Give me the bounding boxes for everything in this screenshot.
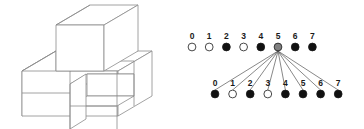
bottom-node-row-dot-1[interactable] (229, 90, 237, 98)
top-cube-front-face (56, 25, 104, 71)
bottom-node-row-label-5: 5 (301, 78, 306, 88)
top-node-row-label-0: 0 (190, 31, 195, 41)
bottom-node-row-dot-4[interactable] (282, 90, 290, 98)
bottom-node-row-label-1: 1 (230, 78, 235, 88)
bottom-node-row-dot-2[interactable] (246, 90, 254, 98)
top-node-row-label-5: 5 (276, 31, 281, 41)
top-node-row-label-1: 1 (207, 31, 212, 41)
node-graph: 01234567 01234567 (182, 0, 364, 129)
top-node-row: 01234567 (188, 31, 316, 51)
top-node-row-dot-5[interactable] (274, 43, 282, 51)
bottom-node-row-label-2: 2 (248, 78, 253, 88)
top-node-row-dot-2[interactable] (223, 43, 231, 51)
top-node-row-label-4: 4 (258, 31, 263, 41)
bottom-node-row-dot-7[interactable] (334, 90, 342, 98)
bottom-node-row-label-3: 3 (265, 78, 270, 88)
top-node-row-dot-3[interactable] (240, 43, 248, 51)
bottom-node-row-dot-0[interactable] (211, 90, 219, 98)
bottom-node-row: 01234567 (211, 78, 342, 98)
top-node-row-dot-7[interactable] (309, 43, 317, 51)
top-node-row-label-2: 2 (224, 31, 229, 41)
top-node-row-dot-6[interactable] (291, 43, 299, 51)
top-node-row-dot-4[interactable] (257, 43, 265, 51)
bottom-node-row-label-7: 7 (336, 78, 341, 88)
isometric-block-structure (0, 0, 182, 129)
figure-root: 01234567 01234567 (0, 0, 364, 129)
top-node-row-label-7: 7 (310, 31, 315, 41)
bottom-node-row-dot-5[interactable] (299, 90, 307, 98)
bottom-node-row-label-6: 6 (318, 78, 323, 88)
top-node-row-dot-0[interactable] (188, 43, 196, 51)
fan-edge-1 (233, 51, 278, 90)
bottom-node-row-dot-3[interactable] (264, 90, 272, 98)
top-node-row-label-6: 6 (293, 31, 298, 41)
top-node-row-dot-1[interactable] (205, 43, 213, 51)
node-graph-panel: 01234567 01234567 (182, 0, 364, 129)
bottom-node-row-label-4: 4 (283, 78, 288, 88)
notch-left-inner-side-face (70, 74, 86, 129)
bottom-node-row-dot-6[interactable] (317, 90, 325, 98)
bottom-node-row-label-0: 0 (213, 78, 218, 88)
notch-back-wall-face (87, 74, 134, 96)
block-diagram-panel (0, 0, 182, 129)
top-node-row-label-3: 3 (241, 31, 246, 41)
fan-edge-2 (250, 51, 278, 90)
